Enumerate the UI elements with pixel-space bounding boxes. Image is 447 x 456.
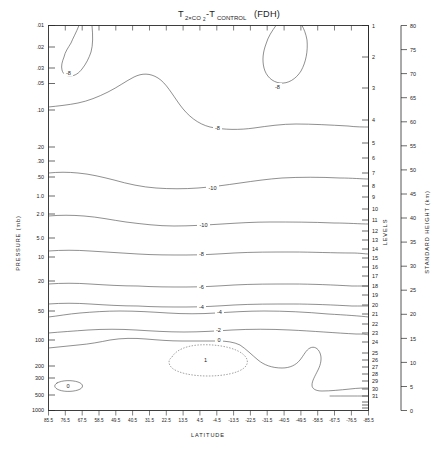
height-tick-label: 20	[410, 311, 416, 317]
plot-frame	[49, 26, 369, 411]
level-tick-label: 7	[372, 170, 375, 176]
contour-label-text: -4	[199, 304, 204, 310]
level-tick-label: 17	[372, 273, 378, 279]
pressure-axis: .01 .02 .03 .05 .10 .20 .30 .50 1.0 2.0 …	[32, 22, 55, 413]
contour--8-mid	[49, 250, 369, 255]
level-tick-label: 4	[372, 117, 375, 123]
contour-0-main	[49, 338, 369, 391]
level-tick-label: 6	[372, 155, 375, 161]
contour-label-0-small: 0	[64, 382, 72, 389]
height-tick-label: 80	[410, 23, 416, 29]
x-tick-label: -85.5	[363, 418, 374, 423]
title-sub-control: CONTROL	[217, 15, 247, 21]
level-tick-label: 11	[372, 217, 378, 223]
contour-label--4-c: -4	[215, 308, 224, 315]
level-tick-label: 29	[372, 378, 378, 384]
height-tick-label: 75	[410, 47, 416, 53]
height-tick-label: 35	[410, 239, 416, 245]
contour-label-1: 1	[202, 355, 209, 363]
contour-label--8-a: -8	[64, 70, 73, 77]
contour-label-text: 0	[217, 337, 220, 343]
title-minus-t: -T	[206, 9, 215, 19]
x-tick-label: -40.5	[279, 418, 290, 423]
level-tick-label: 8	[372, 183, 375, 189]
level-tick-label: 14	[372, 246, 378, 252]
level-tick-label: 25	[372, 350, 378, 356]
y-tick-label: 50	[38, 308, 44, 314]
x-tick-label: -13.5	[228, 418, 239, 423]
y-tick-label: 5.0	[37, 235, 45, 241]
level-tick-label: 27	[372, 364, 378, 370]
y-tick-label: .30	[37, 158, 45, 164]
standard-height-axis: 80 75 70 65 60 55 50 45 40 35 30 25 20 1…	[401, 23, 416, 414]
contour-label-text: -4	[217, 309, 222, 315]
x-tick-label: 58.5	[95, 418, 104, 423]
contour-label-text: -10	[199, 222, 207, 228]
level-tick-label: 31	[372, 393, 378, 399]
y-tick-label: .02	[37, 44, 45, 50]
y-tick-label: .05	[37, 80, 45, 86]
height-tick-label: 15	[410, 336, 416, 342]
height-tick-label: 50	[410, 167, 416, 173]
level-tick-label: 21	[372, 311, 378, 317]
x-tick-label: -22.5	[245, 418, 256, 423]
x-tick-label: 4.5	[197, 418, 204, 423]
x-tick-label: 40.5	[128, 418, 137, 423]
contour-label--10-b: -10	[197, 222, 210, 229]
chart-title: T 2×CO 2 -T CONTROL (FDH)	[178, 9, 280, 22]
contour-label--8-d: -8	[197, 251, 206, 258]
contour--8-sweep	[49, 74, 369, 129]
level-tick-label: 10	[372, 206, 378, 212]
level-tick-label: 16	[372, 264, 378, 270]
height-tick-label: 70	[410, 71, 416, 77]
x-tick-label: -31.5	[262, 418, 273, 423]
x-tick-label: -58.5	[312, 418, 323, 423]
x-tick-label: 85.5	[44, 418, 53, 423]
level-tick-label: 28	[372, 371, 378, 377]
x-tick-label: -76.5	[346, 418, 357, 423]
contour-label-text: -8	[66, 70, 71, 76]
contour-label--8-b: -8	[273, 83, 282, 90]
contour-label-text: -10	[208, 185, 216, 191]
y-tick-label: 2.0	[37, 211, 45, 217]
level-tick-label: 3	[372, 85, 375, 91]
contour-label-text: -8	[215, 125, 220, 131]
x-tick-label: 13.5	[179, 418, 188, 423]
y-tick-label: .03	[37, 65, 45, 71]
contour-label--2: -2	[214, 326, 223, 333]
levels-axis-title: LEVELS	[382, 219, 388, 246]
title-sub-2xco2: 2×CO	[185, 15, 201, 21]
level-tick-label: 18	[372, 283, 378, 289]
latitude-axis: 85.5 76.5 67.5 58.5 49.5 40.5 31.5 22.5 …	[44, 411, 374, 424]
contour--4-b	[49, 311, 369, 317]
contour-label-text: 0	[66, 383, 69, 389]
height-tick-label: 10	[410, 360, 416, 366]
level-tick-label: 1	[372, 23, 375, 29]
height-tick-label: 0	[410, 408, 413, 414]
contour-label-text: -2	[216, 327, 221, 333]
contour-label--6: -6	[197, 283, 206, 290]
y-tick-label: 1000	[32, 407, 44, 413]
contour-label--8-c: -8	[213, 124, 222, 131]
top-axis-ticks	[65, 26, 351, 31]
y-tick-label: 20	[38, 278, 44, 284]
y-tick-label: 1.0	[37, 193, 45, 199]
level-tick-label: 15	[372, 255, 378, 261]
level-tick-label: 22	[372, 321, 378, 327]
y-tick-label: 100	[35, 337, 44, 343]
title-fdh: (FDH)	[254, 9, 280, 19]
level-tick-label: 5	[372, 140, 375, 146]
height-tick-label: 60	[410, 119, 416, 125]
y-tick-label: 500	[35, 392, 44, 398]
y-axis-title: PRESSURE (mb)	[15, 215, 21, 271]
contour-label--4-a: -4	[197, 303, 206, 310]
x-axis-title: LATITUDE	[191, 432, 225, 438]
y-tick-label: 200	[35, 363, 44, 369]
levels-axis: 1 2 3 4 5 6 7 8 9 10 11 12 13 14 15 16 1…	[362, 23, 378, 411]
level-tick-label: 24	[372, 339, 378, 345]
contour--8-upper-right	[263, 26, 307, 84]
y-tick-label: .20	[37, 144, 45, 150]
x-tick-label: -4.5	[213, 418, 221, 423]
height-tick-label: 5	[410, 384, 413, 390]
height-tick-label: 40	[410, 215, 416, 221]
